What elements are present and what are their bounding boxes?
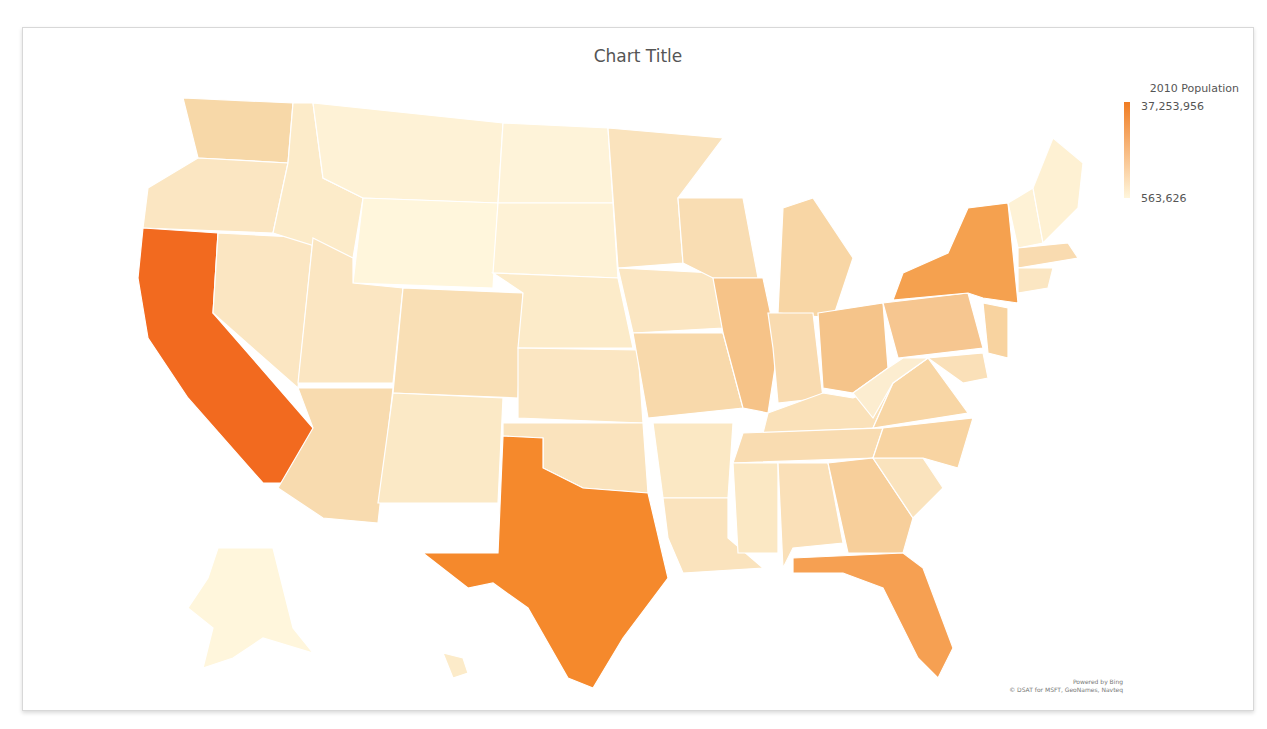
- state-kansas: [518, 348, 643, 423]
- state-south-dakota: [493, 203, 618, 278]
- state-oregon: [143, 158, 288, 233]
- state-iowa: [618, 268, 723, 333]
- state-mississippi: [733, 463, 778, 553]
- attribution-copyright: © DSAT for MSFT, GeoNames, Navteq: [1009, 686, 1123, 694]
- state-washington: [183, 98, 293, 163]
- state-new-york: [893, 203, 1018, 303]
- state-michigan: [778, 198, 853, 318]
- state-florida: [793, 553, 953, 678]
- state-alaska: [188, 548, 313, 668]
- state-connecticut-ri: [1018, 268, 1053, 293]
- chart-frame: Chart Title: [22, 27, 1254, 711]
- us-map[interactable]: [23, 28, 1253, 710]
- state-wyoming: [353, 198, 498, 288]
- state-new-jersey: [983, 303, 1008, 358]
- legend-gradient-bar: [1124, 102, 1130, 198]
- state-indiana: [768, 313, 823, 403]
- state-maine: [1033, 138, 1083, 243]
- state-hawaii: [443, 653, 468, 678]
- state-pennsylvania: [883, 293, 983, 358]
- state-wisconsin: [678, 198, 758, 278]
- state-new-mexico: [378, 393, 503, 503]
- legend-max-label: 37,253,956: [1141, 100, 1204, 113]
- legend-min-label: 563,626: [1141, 192, 1187, 205]
- legend-title: 2010 Population: [1109, 82, 1239, 95]
- state-arkansas: [653, 423, 733, 498]
- state-colorado: [393, 288, 523, 398]
- state-massachusetts: [1018, 243, 1078, 268]
- state-north-dakota: [498, 123, 613, 203]
- state-tennessee: [733, 428, 883, 463]
- legend: 2010 Population 37,253,956 563,626: [1109, 82, 1239, 95]
- attribution-powered-by: Powered by Bing: [1009, 678, 1123, 686]
- map-attribution: Powered by Bing © DSAT for MSFT, GeoName…: [1009, 678, 1123, 694]
